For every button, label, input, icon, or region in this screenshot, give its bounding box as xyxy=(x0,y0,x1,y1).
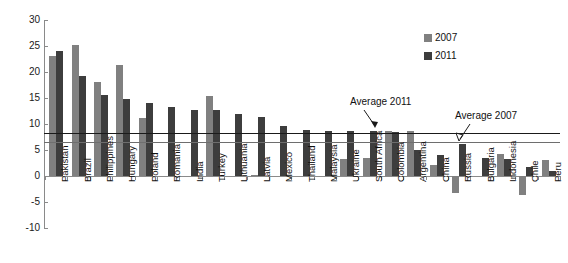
chart-container: -10-5051015202530 PakistanBrazilPhilippi… xyxy=(0,0,568,263)
annotation-arrows xyxy=(0,0,568,263)
